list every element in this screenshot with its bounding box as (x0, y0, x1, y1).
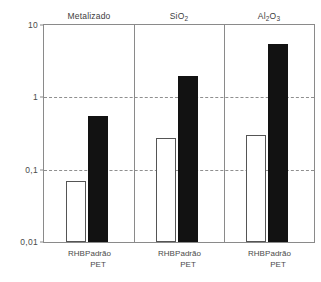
bar-rhb (156, 138, 176, 242)
panel-sio2: SiO2RHBPadrãoPET (134, 25, 224, 242)
plot-area: 1010,10,01MetalizadoRHBPadrãoPETSiO2RHBP… (43, 24, 315, 243)
panel-title: SiO2 (134, 11, 224, 21)
bar-rhb (246, 135, 266, 242)
bar-rhb (66, 181, 86, 242)
y-axis-tick-label: 0,01 (20, 237, 38, 247)
panel-title: Metalizado (44, 11, 134, 21)
x-axis-tick-label: PadrãoPET (265, 248, 291, 270)
x-axis-tick-label: RHB (248, 248, 265, 259)
bar-padrao-pet (178, 76, 198, 242)
panel-al2o3: Al2O3RHBPadrãoPET (224, 25, 314, 242)
x-axis-tick-label: PadrãoPET (175, 248, 201, 270)
y-axis-tick-label: 1 (33, 92, 38, 102)
x-axis-tick-label: RHB (68, 248, 85, 259)
panel-title: Al2O3 (224, 11, 314, 21)
y-axis-tick-label: 10 (28, 20, 38, 30)
panel-metalizado: MetalizadoRHBPadrãoPET (44, 25, 134, 242)
bar-padrao-pet (268, 44, 288, 242)
x-axis-tick-label: PadrãoPET (85, 248, 111, 270)
x-axis-tick-label: RHB (158, 248, 175, 259)
y-axis-tick-label: 0,1 (25, 165, 38, 175)
chart-root: 1010,10,01MetalizadoRHBPadrãoPETSiO2RHBP… (0, 0, 321, 282)
bar-padrao-pet (88, 116, 108, 242)
